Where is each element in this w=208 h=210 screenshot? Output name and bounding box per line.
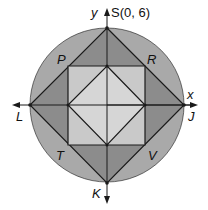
- point-K: [105, 181, 109, 185]
- label-S: S(0, 6): [111, 5, 150, 20]
- point-J: [182, 103, 186, 107]
- label-R: R: [147, 52, 156, 67]
- point-inner-right: [144, 104, 147, 107]
- label-P: P: [57, 52, 66, 67]
- y-axis-label: y: [90, 5, 99, 20]
- x-axis-label: x: [186, 87, 194, 102]
- point-inner-top: [106, 65, 109, 68]
- label-K: K: [92, 186, 102, 201]
- label-L: L: [16, 109, 23, 124]
- point-inner-bottom: [106, 144, 109, 147]
- label-T: T: [56, 148, 65, 163]
- label-J: J: [187, 109, 195, 124]
- label-V: V: [148, 148, 158, 163]
- diagram-canvas: y S(0, 6) x J L K P R T V: [0, 0, 208, 210]
- point-inner-left: [67, 104, 70, 107]
- geometry-diagram: y S(0, 6) x J L K P R T V: [0, 0, 208, 210]
- point-L: [28, 103, 32, 107]
- point-S: [105, 26, 109, 30]
